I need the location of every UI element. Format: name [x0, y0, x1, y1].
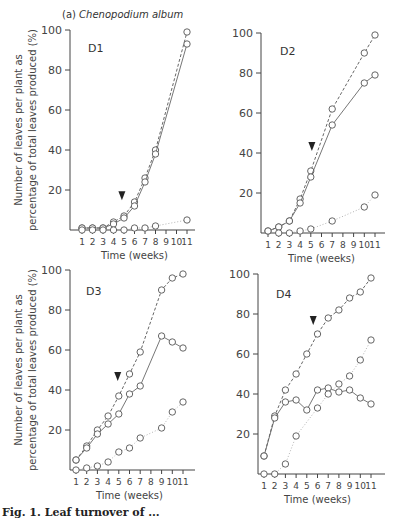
data-point — [158, 333, 164, 339]
data-point — [297, 228, 303, 234]
series-line-dashed — [264, 278, 371, 456]
panel-d2: 204060801001234567891011Time (weeks)D2 — [232, 27, 385, 264]
data-point — [126, 391, 132, 397]
x-tick-label: 1 — [79, 237, 85, 247]
series-line-solid — [76, 336, 183, 460]
arrow-marker-icon — [114, 372, 121, 381]
data-point — [361, 80, 367, 86]
y-tick-label: 80 — [239, 67, 253, 80]
data-point — [282, 461, 288, 467]
data-point — [116, 449, 122, 455]
y-tick-label: 20 — [48, 424, 62, 437]
x-tick-label: 8 — [336, 481, 342, 491]
data-point — [346, 387, 352, 393]
arrow-marker-icon — [118, 191, 125, 200]
y-tick-label: 20 — [48, 184, 62, 197]
x-tick-label: 1 — [265, 240, 271, 250]
x-tick-label: 9 — [159, 477, 165, 487]
data-point — [361, 50, 367, 56]
data-point — [121, 215, 127, 221]
data-point — [152, 223, 158, 229]
data-point — [84, 465, 90, 471]
panel-label: D2 — [280, 45, 295, 58]
data-point — [137, 349, 143, 355]
y-tick-label: 80 — [236, 308, 250, 321]
data-point — [261, 471, 267, 477]
data-point — [276, 230, 282, 236]
x-tick-label: 9 — [163, 237, 169, 247]
y-tick-label: 100 — [232, 27, 253, 40]
data-point — [73, 467, 79, 473]
data-point — [308, 174, 314, 180]
data-point — [184, 41, 190, 47]
y-axis-title: Number of leaves per plant aspercentage … — [13, 29, 38, 231]
data-point — [272, 415, 278, 421]
x-tick-label: 11 — [177, 477, 188, 487]
data-point — [116, 411, 122, 417]
data-point — [169, 275, 175, 281]
series-line-solid — [268, 75, 375, 231]
y-tick-label: 40 — [48, 384, 62, 397]
series-line-dashed — [76, 274, 183, 460]
data-point — [184, 217, 190, 223]
data-point — [336, 389, 342, 395]
data-point — [372, 32, 378, 38]
x-tick-label: 4 — [111, 237, 117, 247]
y-axis-title: Number of leaves per plant aspercentage … — [13, 269, 38, 471]
x-tick-label: 3 — [283, 481, 289, 491]
x-tick-label: 1 — [261, 481, 267, 491]
x-tick-label: 11 — [181, 237, 192, 247]
x-tick-label: 11 — [369, 240, 380, 250]
data-point — [293, 371, 299, 377]
y-tick-label: 40 — [239, 147, 253, 160]
data-point — [336, 307, 342, 313]
data-point — [169, 339, 175, 345]
arrow-marker-icon — [308, 142, 315, 151]
x-axis-title: Time (weeks) — [287, 253, 355, 264]
y-tick-label: 80 — [48, 64, 62, 77]
x-tick-label: 2 — [90, 237, 96, 247]
data-point — [325, 385, 331, 391]
y-tick-label: 40 — [236, 388, 250, 401]
data-point — [282, 399, 288, 405]
x-tick-label: 5 — [121, 237, 127, 247]
x-tick-label: 11 — [365, 481, 376, 491]
data-point — [286, 218, 292, 224]
data-point — [89, 227, 95, 233]
data-point — [100, 227, 106, 233]
data-point — [325, 391, 331, 397]
x-tick-label: 8 — [340, 240, 346, 250]
data-point — [180, 271, 186, 277]
x-tick-label: 4 — [297, 240, 303, 250]
data-point — [297, 200, 303, 206]
x-axis-title: Time (weeks) — [283, 494, 351, 505]
data-point — [329, 122, 335, 128]
data-point — [314, 387, 320, 393]
panel-label: D3 — [86, 285, 101, 298]
data-point — [357, 395, 363, 401]
data-point — [325, 315, 331, 321]
data-point — [293, 433, 299, 439]
data-point — [137, 435, 143, 441]
arrow-marker-icon — [310, 316, 317, 325]
series-line-solid — [264, 388, 371, 456]
data-point — [94, 463, 100, 469]
y-tick-label: 80 — [48, 304, 62, 317]
y-tick-label: 60 — [236, 348, 250, 361]
data-point — [361, 204, 367, 210]
data-point — [110, 227, 116, 233]
x-tick-label: 3 — [100, 237, 106, 247]
data-point — [142, 225, 148, 231]
data-point — [336, 381, 342, 387]
x-tick-label: 9 — [351, 240, 357, 250]
data-point — [126, 445, 132, 451]
x-tick-label: 5 — [116, 477, 122, 487]
data-point — [131, 225, 137, 231]
data-point — [276, 224, 282, 230]
data-point — [293, 397, 299, 403]
data-point — [105, 413, 111, 419]
svg-text:Number of leaves per plant as: Number of leaves per plant as — [13, 294, 24, 446]
data-point — [180, 399, 186, 405]
panel-d4: 204060801001234567891011Time (weeks)D4 — [229, 268, 385, 505]
data-point — [126, 371, 132, 377]
